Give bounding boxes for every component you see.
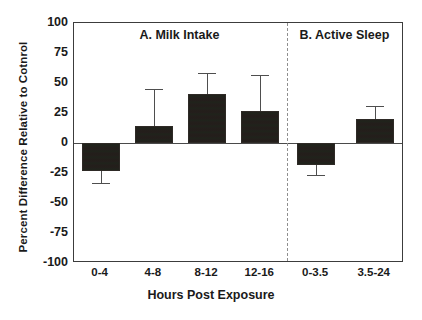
bar bbox=[135, 126, 173, 143]
bar bbox=[356, 119, 394, 143]
y-tick-label: -75 bbox=[26, 226, 68, 239]
x-axis-title: Hours Post Exposure bbox=[0, 288, 422, 302]
bar bbox=[241, 111, 279, 143]
y-axis-tick-labels: 1007550250-25-50-75-100 bbox=[26, 0, 68, 320]
y-tick-label: 50 bbox=[26, 76, 68, 89]
zero-reference-line bbox=[74, 143, 402, 144]
bar bbox=[297, 143, 335, 165]
x-tick-label: 4-8 bbox=[145, 266, 162, 278]
chart-figure: Percent Difference Relative to Cotnrol 1… bbox=[0, 0, 422, 320]
x-tick-label: 3.5-24 bbox=[357, 266, 390, 278]
y-tick-label: -100 bbox=[26, 256, 68, 269]
x-tick-label: 0-4 bbox=[91, 266, 108, 278]
error-bar-cap bbox=[366, 106, 384, 107]
error-bar-cap bbox=[198, 73, 216, 74]
x-tick-label: 0-3.5 bbox=[302, 266, 328, 278]
bar bbox=[188, 94, 226, 143]
error-bar-cap bbox=[251, 75, 269, 76]
panel-title-b: B. Active Sleep bbox=[299, 28, 389, 42]
plot-area bbox=[73, 22, 403, 262]
error-bar-stem bbox=[207, 73, 208, 93]
y-tick-label: 100 bbox=[26, 16, 68, 29]
x-tick-label: 12-16 bbox=[245, 266, 274, 278]
panel-title-a: A. Milk Intake bbox=[139, 28, 219, 42]
error-bar-cap bbox=[92, 183, 110, 184]
error-bar-cap bbox=[307, 175, 325, 176]
error-bar-stem bbox=[154, 89, 155, 126]
error-bar-stem bbox=[101, 171, 102, 183]
x-tick-label: 8-12 bbox=[195, 266, 218, 278]
error-bar-stem bbox=[375, 106, 376, 119]
panel-divider-line bbox=[287, 23, 288, 261]
y-tick-label: -50 bbox=[26, 196, 68, 209]
bar bbox=[82, 143, 120, 171]
error-bar-cap bbox=[145, 89, 163, 90]
y-tick-label: 75 bbox=[26, 46, 68, 59]
y-tick-label: 25 bbox=[26, 106, 68, 119]
y-tick-label: 0 bbox=[26, 136, 68, 149]
y-tick-label: -25 bbox=[26, 166, 68, 179]
error-bar-stem bbox=[260, 75, 261, 111]
error-bar-stem bbox=[316, 165, 317, 176]
